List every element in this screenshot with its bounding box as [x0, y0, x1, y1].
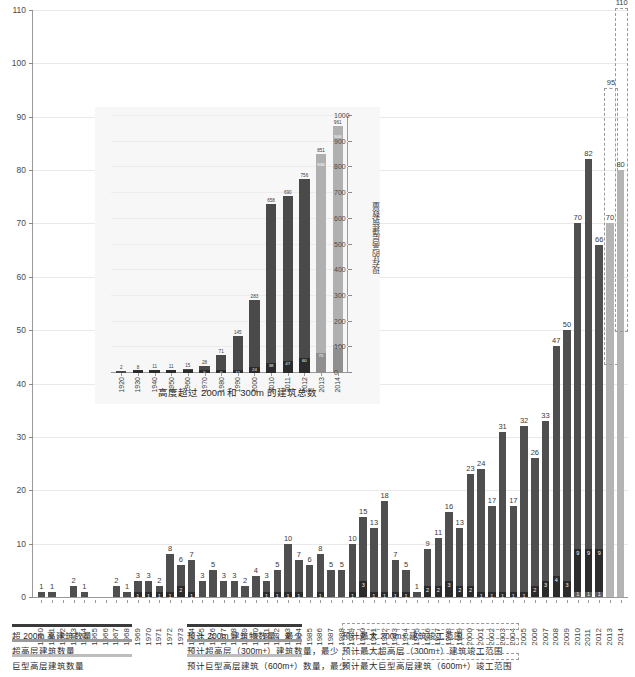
x-axis-tick-mark: [84, 600, 85, 603]
bar-total-label: 5: [275, 560, 279, 569]
bar-segment-200m: [38, 592, 46, 597]
bar-total-label: 3: [200, 571, 204, 580]
bar-column: 13: [263, 581, 271, 597]
x-axis-tick-mark: [578, 600, 579, 603]
bar-column: 333: [542, 421, 550, 597]
bar-segment-label-600m: 1: [598, 591, 601, 597]
legend-swatch: [12, 654, 132, 657]
bar-segment-200m: [563, 330, 571, 597]
bar-segment-label-300m: 1: [297, 593, 300, 599]
x-axis-tick-mark: [52, 600, 53, 603]
x-axis-tick-mark: [503, 600, 504, 603]
bar-segment-label-300m: 1: [394, 593, 397, 599]
bar-total-label: 16: [445, 502, 453, 511]
bar-segment-label-300m: 1: [480, 593, 483, 599]
inset-gridline: [111, 244, 348, 245]
bar-segment-300m: 1: [477, 592, 485, 597]
inset-gridline: [111, 295, 348, 296]
bar-segment-label-300m: 2: [469, 587, 472, 593]
bar-column: 4: [252, 576, 260, 597]
x-axis-tick-mark: [621, 600, 622, 603]
bar-segment-300m: 1: [510, 592, 518, 597]
bar-segment-200m: [531, 458, 539, 597]
legend-swatch: [187, 624, 302, 627]
inset-bar-total-label: 15: [185, 363, 190, 368]
x-axis-tick-mark: [277, 600, 278, 603]
bar-column: 12: [156, 586, 164, 597]
x-axis-tick-mark: [395, 600, 396, 603]
bar-total-label: 10: [348, 534, 356, 543]
bar-column: 315: [359, 517, 367, 597]
bar-column: 5: [327, 570, 335, 597]
x-axis-line: [32, 597, 628, 598]
bar-column: 17: [392, 560, 400, 597]
bar-total-label: 8: [168, 544, 172, 553]
legend-swatch: [187, 654, 302, 657]
inset-x-tick-mark: [271, 373, 272, 376]
bar-segment-300m: 1: [392, 592, 400, 597]
bar-total-label: 1: [82, 582, 86, 591]
bar-total-label: 10: [284, 534, 292, 543]
bar-segment-300m: 1: [381, 592, 389, 597]
inset-bar-column: 11145: [233, 336, 243, 373]
bar-segment-label-300m: 1: [287, 593, 290, 599]
bar-total-label: 17: [509, 496, 517, 505]
bar-segment-300m: 1: [188, 592, 196, 597]
bar-segment-label-300m: 1: [319, 593, 322, 599]
x-axis-tick-mark: [610, 600, 611, 603]
bar-segment-label-300m: 1: [405, 593, 408, 599]
x-axis-tick-mark: [546, 600, 547, 603]
inset-x-axis-line: [111, 372, 348, 373]
y-axis-tick-label: 60: [0, 272, 26, 282]
bar-total-label: 17: [488, 496, 496, 505]
inset-bar-segment-300m: 47: [283, 361, 293, 373]
x-axis-tick-mark: [288, 600, 289, 603]
bar-segment-200m: [370, 528, 378, 597]
bar-total-label: 5: [329, 560, 333, 569]
bar-total-label: 11: [434, 528, 442, 537]
x-axis-tick-mark: [299, 600, 300, 603]
bar-segment-300m: 1: [295, 592, 303, 597]
bar-segment-200m: [166, 554, 174, 597]
inset-x-tick-mark: [188, 373, 189, 376]
x-axis-tick-mark: [513, 600, 514, 603]
bar-segment-600m: 1: [585, 592, 593, 597]
inset-bar-segment-200m: [233, 336, 243, 373]
inset-y-tick-mark: [348, 244, 352, 245]
bar-segment-label-300m: 2: [533, 587, 536, 593]
bar-column: 17: [295, 560, 303, 597]
inset-bar-total-label: 11: [169, 364, 174, 369]
inset-gridline: [111, 166, 348, 167]
bar-segment-200m: [520, 426, 528, 597]
projection-max-label: 110: [616, 0, 628, 7]
bar-segment-200m: [381, 501, 389, 597]
bar-segment-600m: 1: [574, 592, 582, 597]
bar-segment-label-300m: 1: [147, 593, 150, 599]
inset-bar-total-label: 28: [202, 360, 207, 365]
y-axis-tick-label: 90: [0, 112, 26, 122]
inset-x-tick-mark: [304, 373, 305, 376]
bar-total-label: 1: [39, 582, 43, 591]
inset-bar-column: 60756: [299, 179, 309, 373]
bar-segment-300m: 3: [445, 581, 453, 597]
inset-bar-column: 38658: [266, 204, 276, 373]
bar-segment-200m: [81, 592, 89, 597]
x-axis-tick-mark: [310, 600, 311, 603]
inset-y-axis-title: 现存的高层建筑数量: [371, 202, 382, 274]
x-axis-tick-mark: [460, 600, 461, 603]
inset-bar-inner-label: 60: [302, 358, 307, 363]
inset-gridline: [111, 269, 348, 270]
bar-column: 2: [70, 586, 78, 597]
bar-column: 5: [338, 570, 346, 597]
x-axis-tick-mark: [492, 600, 493, 603]
inset-bar-segment-200m: [249, 300, 259, 373]
y-axis-tick-label: 110: [0, 5, 26, 15]
bar-segment-200m: [595, 245, 603, 597]
x-axis-tick-mark: [192, 600, 193, 603]
bar-segment-200m: [585, 159, 593, 597]
bar-column: 5: [209, 570, 217, 597]
inset-bar-total-label: 145: [234, 330, 242, 335]
legend-row: 超 200m 高建筑数量预计 200m 建筑物数量，最少预计最大 200m+ 建…: [12, 624, 627, 639]
y-axis-tick-label: 70: [0, 218, 26, 228]
bar-total-label: 8: [318, 544, 322, 553]
